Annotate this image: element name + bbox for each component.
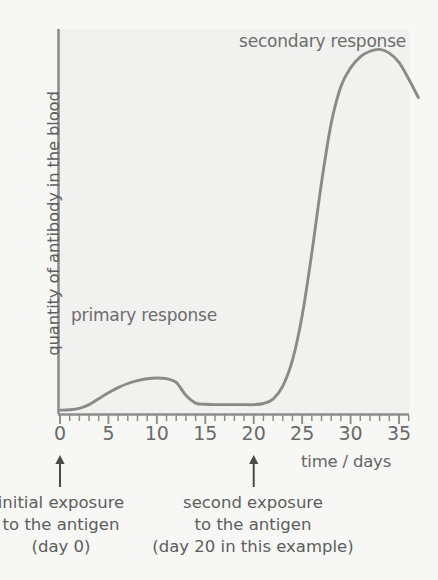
secondary-response-label: secondary response bbox=[239, 31, 406, 51]
x-tick-label-5: 5 bbox=[88, 422, 128, 444]
second-exposure-caption-line1: second exposure bbox=[142, 492, 364, 514]
x-tick-label-25: 25 bbox=[282, 422, 322, 444]
primary-response-label: primary response bbox=[71, 305, 217, 325]
second-exposure-caption: second exposure to the antigen (day 20 i… bbox=[142, 492, 364, 558]
exposure-arrow-markers bbox=[55, 455, 258, 487]
x-tick-label-20: 20 bbox=[234, 422, 274, 444]
initial-exposure-arrow bbox=[55, 455, 64, 487]
x-axis-title: time / days bbox=[301, 452, 391, 471]
x-tick-label-10: 10 bbox=[137, 422, 177, 444]
initial-exposure-caption-line1: initial exposure bbox=[0, 492, 154, 514]
x-tick-label-30: 30 bbox=[331, 422, 371, 444]
initial-exposure-caption: initial exposure to the antigen (day 0) bbox=[0, 492, 154, 558]
x-tick-label-0: 0 bbox=[40, 422, 80, 444]
x-tick-label-35: 35 bbox=[379, 422, 419, 444]
second-exposure-arrow bbox=[249, 455, 258, 487]
initial-exposure-caption-line3: (day 0) bbox=[0, 536, 154, 558]
y-axis-title: quantity of antibody in the blood bbox=[44, 59, 63, 389]
antibody-response-figure: quantity of antibody in the blood second… bbox=[0, 0, 438, 580]
x-tick-label-15: 15 bbox=[185, 422, 225, 444]
second-exposure-caption-line2: to the antigen bbox=[142, 514, 364, 536]
second-exposure-caption-line3: (day 20 in this example) bbox=[142, 536, 364, 558]
initial-exposure-caption-line2: to the antigen bbox=[0, 514, 154, 536]
antibody-curve bbox=[60, 49, 418, 410]
